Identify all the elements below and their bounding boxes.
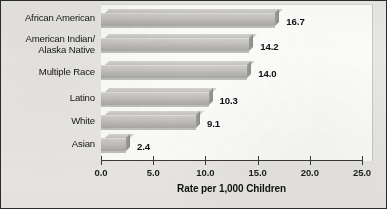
- category-label-asian: Asian: [72, 138, 95, 149]
- bar-value-label: 10.3: [220, 95, 238, 106]
- bar-front-face: [101, 138, 126, 151]
- x-axis-tick-label: 15.0: [249, 167, 267, 178]
- category-label-american-indian-alaska-native: American Indian/ Alaska Native: [25, 33, 95, 55]
- x-axis-tick: [258, 156, 259, 165]
- bar-front-face: [101, 38, 249, 51]
- category-label-multiple-race: Multiple Race: [39, 66, 95, 77]
- bar-value-label: 14.2: [260, 41, 278, 52]
- x-axis-title: Rate per 1,000 Children: [101, 183, 362, 194]
- x-axis-tick-label: 25.0: [353, 167, 371, 178]
- x-axis-line: [101, 160, 362, 161]
- x-axis-tick-label: 10.0: [196, 167, 214, 178]
- bar-bottom-shadow: [101, 26, 275, 28]
- bar-front-face: [101, 13, 275, 26]
- bar-value-label: 2.4: [137, 141, 150, 152]
- bar-bottom-shadow: [101, 51, 249, 53]
- category-label-african-american: African American: [25, 12, 95, 23]
- bar-bottom-shadow: [101, 105, 209, 107]
- category-label-white: White: [71, 115, 95, 126]
- bar-front-face: [101, 92, 209, 105]
- bar-front-face: [101, 65, 247, 78]
- bar-value-label: 16.7: [286, 16, 304, 27]
- category-label-latino: Latino: [70, 92, 95, 103]
- x-axis-tick: [362, 156, 363, 165]
- bar-value-label: 14.0: [258, 68, 276, 79]
- x-axis-tick: [205, 156, 206, 165]
- bar-value-label: 9.1: [207, 118, 220, 129]
- x-axis-tick-label: 20.0: [301, 167, 319, 178]
- bar-bottom-shadow: [101, 128, 196, 130]
- x-axis-tick: [310, 156, 311, 165]
- x-axis-tick-label: 5.0: [147, 167, 160, 178]
- bar-bottom-shadow: [101, 151, 126, 153]
- x-axis-tick: [101, 156, 102, 165]
- x-axis-tick: [153, 156, 154, 165]
- bar-chart-figure: African American American Indian/ Alaska…: [0, 0, 387, 209]
- bar-front-face: [101, 115, 196, 128]
- bar-bottom-shadow: [101, 78, 247, 80]
- x-axis-tick-label: 0.0: [95, 167, 108, 178]
